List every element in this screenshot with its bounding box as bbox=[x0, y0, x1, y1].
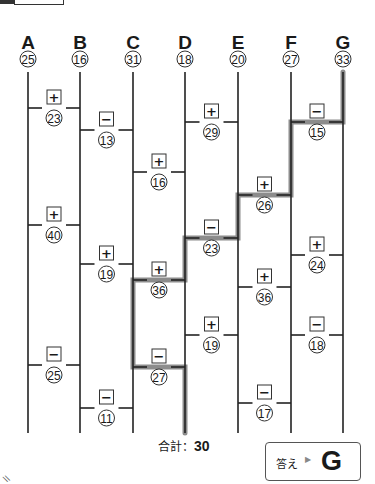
answer-box: 答え ▶ G bbox=[265, 442, 361, 481]
rung-value: 23 bbox=[47, 112, 61, 126]
rung-value: 24 bbox=[310, 259, 324, 273]
start-value-a: 25 bbox=[21, 53, 35, 67]
rung-value: 19 bbox=[205, 339, 219, 353]
operator: − bbox=[312, 104, 323, 119]
rung-value: 16 bbox=[152, 176, 166, 190]
rung-value: 11 bbox=[100, 412, 113, 426]
amidakuji-diagram: +23+40−25−13+19−11+16+36−27+29−23+19+26+… bbox=[0, 0, 375, 440]
answer-label: 答え bbox=[276, 455, 298, 471]
operator: + bbox=[154, 262, 165, 277]
operator: + bbox=[154, 154, 165, 169]
operator: + bbox=[101, 246, 112, 261]
operator: − bbox=[206, 220, 217, 235]
column-label-f: F bbox=[285, 32, 297, 53]
operator: − bbox=[101, 112, 112, 127]
total-value: 30 bbox=[194, 438, 210, 454]
rung-value: 25 bbox=[47, 369, 61, 383]
rung-value: 27 bbox=[152, 371, 166, 385]
total-sum: 合計：30 bbox=[158, 437, 210, 454]
operator: − bbox=[312, 317, 323, 332]
operator: + bbox=[206, 104, 217, 119]
column-label-c: C bbox=[126, 32, 140, 53]
rung-value: 40 bbox=[47, 229, 61, 243]
rung-value: 36 bbox=[258, 291, 272, 305]
column-label-a: A bbox=[21, 32, 35, 53]
rung-value: 36 bbox=[152, 284, 166, 298]
column-label-g: G bbox=[336, 32, 351, 53]
operator: − bbox=[101, 390, 112, 405]
rung-value: 23 bbox=[205, 242, 219, 256]
rung-value: 26 bbox=[258, 199, 272, 213]
operator: + bbox=[312, 237, 323, 252]
start-value-d: 18 bbox=[178, 53, 192, 67]
rung-value: 13 bbox=[100, 134, 114, 148]
column-label-e: E bbox=[232, 32, 245, 53]
arrow-right-icon: ▶ bbox=[305, 455, 311, 464]
start-value-b: 16 bbox=[73, 53, 87, 67]
operator: − bbox=[154, 349, 165, 364]
operator: + bbox=[259, 177, 270, 192]
rung-value: 18 bbox=[310, 339, 324, 353]
operator: + bbox=[49, 207, 60, 222]
rung-value: 19 bbox=[100, 268, 114, 282]
start-value-e: 20 bbox=[231, 53, 245, 67]
operator: + bbox=[49, 90, 60, 105]
rung-value: 15 bbox=[310, 126, 324, 140]
column-label-b: B bbox=[73, 32, 87, 53]
operator: + bbox=[206, 317, 217, 332]
total-label: 合計： bbox=[158, 440, 194, 454]
start-value-f: 27 bbox=[284, 53, 298, 67]
operator: + bbox=[259, 269, 270, 284]
operator: − bbox=[49, 347, 60, 362]
operator: − bbox=[259, 385, 270, 400]
start-value-g: 33 bbox=[336, 53, 350, 67]
answer-value: G bbox=[321, 446, 342, 477]
rung-value: 17 bbox=[258, 407, 272, 421]
rung-value: 29 bbox=[205, 126, 219, 140]
start-value-c: 31 bbox=[126, 53, 140, 67]
decorative-mark: \\ bbox=[2, 473, 11, 484]
column-label-d: D bbox=[178, 32, 192, 53]
